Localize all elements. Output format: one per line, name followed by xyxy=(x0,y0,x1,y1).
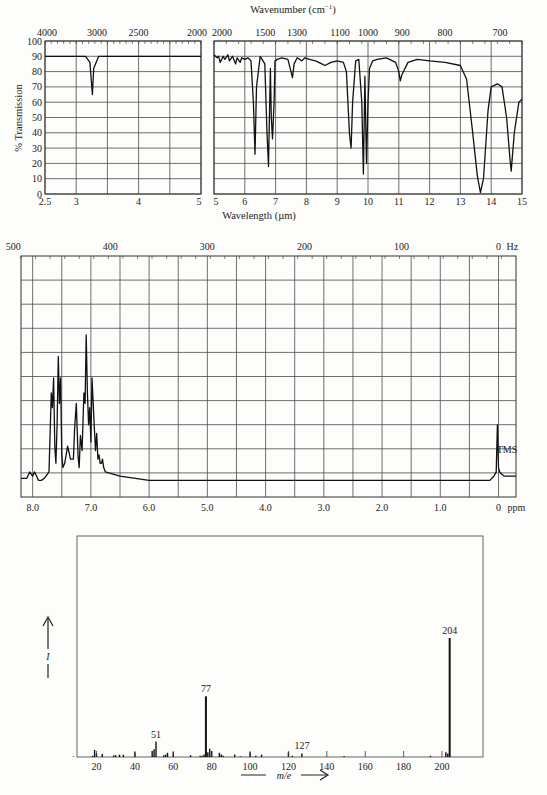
svg-text:77: 77 xyxy=(201,683,211,694)
ms-peaks xyxy=(73,638,449,757)
svg-text:2000: 2000 xyxy=(187,27,207,38)
svg-text:ppm: ppm xyxy=(508,502,526,513)
svg-text:12: 12 xyxy=(425,196,435,207)
svg-text:40: 40 xyxy=(32,127,42,138)
svg-text:20: 20 xyxy=(32,158,42,169)
ms-xlabel: m/e xyxy=(277,770,292,781)
svg-text:7.0: 7.0 xyxy=(85,502,98,513)
svg-text:6.0: 6.0 xyxy=(143,502,156,513)
svg-text:60: 60 xyxy=(32,97,42,108)
svg-text:1500: 1500 xyxy=(255,27,275,38)
svg-text:5.0: 5.0 xyxy=(201,502,214,513)
svg-text:15: 15 xyxy=(517,196,527,207)
svg-text:50: 50 xyxy=(32,112,42,123)
svg-text:9: 9 xyxy=(335,196,340,207)
svg-text:1000: 1000 xyxy=(358,27,378,38)
svg-text:204: 204 xyxy=(442,625,457,636)
svg-text:Hz: Hz xyxy=(507,241,519,252)
svg-text:10: 10 xyxy=(363,196,373,207)
svg-text:30: 30 xyxy=(32,143,42,154)
svg-text:2.0: 2.0 xyxy=(376,502,389,513)
svg-text:200: 200 xyxy=(435,761,450,772)
svg-text:13: 13 xyxy=(455,196,465,207)
ir-xlabel: Wavelength (µm) xyxy=(222,210,296,222)
svg-text:3000: 3000 xyxy=(87,27,107,38)
svg-text:800: 800 xyxy=(438,27,453,38)
svg-text:70: 70 xyxy=(32,81,42,92)
svg-text:90: 90 xyxy=(32,51,42,62)
svg-text:100: 100 xyxy=(27,36,42,47)
svg-text:8.0: 8.0 xyxy=(26,502,39,513)
ir-axis-labels: 2.53454000300025002000567891011121314152… xyxy=(27,27,527,207)
ir-ylabel: % Transmission xyxy=(13,84,24,152)
nmr-tms-label: TMS xyxy=(497,444,518,455)
svg-text:6: 6 xyxy=(242,196,247,207)
svg-text:0: 0 xyxy=(496,502,501,513)
svg-text:700: 700 xyxy=(493,27,508,38)
ir-wavenumber-title: Wavenumber (cm−1) xyxy=(250,3,336,16)
svg-text:180: 180 xyxy=(396,761,411,772)
ms-ylabel: I xyxy=(45,651,50,662)
svg-text:2000: 2000 xyxy=(212,27,232,38)
svg-text:100: 100 xyxy=(243,761,258,772)
svg-text:900: 900 xyxy=(395,27,410,38)
svg-text:500: 500 xyxy=(6,241,21,252)
svg-text:200: 200 xyxy=(297,241,312,252)
svg-text:0: 0 xyxy=(496,241,501,252)
svg-text:80: 80 xyxy=(32,66,42,77)
svg-text:40: 40 xyxy=(130,761,140,772)
svg-text:300: 300 xyxy=(200,241,215,252)
ms-axis-labels: 204060801001201401601802005177127204 xyxy=(92,625,458,772)
ir-spectrum: 2.53454000300025002000567891011121314152… xyxy=(13,3,527,222)
svg-text:2500: 2500 xyxy=(129,27,149,38)
svg-text:14: 14 xyxy=(486,196,496,207)
svg-text:7: 7 xyxy=(273,196,278,207)
svg-text:4: 4 xyxy=(136,196,141,207)
svg-text:5: 5 xyxy=(214,196,219,207)
svg-text:4.0: 4.0 xyxy=(259,502,272,513)
nmr-grid xyxy=(21,256,516,497)
ms-frame xyxy=(77,536,483,757)
svg-text:400: 400 xyxy=(103,241,118,252)
svg-text:10: 10 xyxy=(32,173,42,184)
svg-text:100: 100 xyxy=(394,241,409,252)
svg-text:3.0: 3.0 xyxy=(318,502,331,513)
svg-text:160: 160 xyxy=(358,761,373,772)
svg-text:5: 5 xyxy=(197,196,202,207)
ms-intensity-axis: I xyxy=(43,617,53,678)
svg-text:0: 0 xyxy=(37,189,42,200)
spectra-figure: 2.53454000300025002000567891011121314152… xyxy=(0,0,547,795)
svg-text:8: 8 xyxy=(304,196,309,207)
nmr-spectrum: 8.07.06.05.04.03.02.01.00ppm500400300200… xyxy=(6,241,526,513)
mass-spectrum: 204060801001201401601802005177127204 I m… xyxy=(43,536,483,781)
svg-text:1.0: 1.0 xyxy=(434,502,447,513)
nmr-signal-curve xyxy=(21,335,516,480)
svg-text:60: 60 xyxy=(168,761,178,772)
ir-transmission-curve xyxy=(45,55,522,193)
svg-text:127: 127 xyxy=(294,740,309,751)
svg-text:20: 20 xyxy=(92,761,102,772)
svg-text:1100: 1100 xyxy=(330,27,350,38)
svg-text:80: 80 xyxy=(207,761,217,772)
svg-text:1300: 1300 xyxy=(287,27,307,38)
svg-text:11: 11 xyxy=(394,196,404,207)
svg-text:51: 51 xyxy=(151,729,161,740)
svg-text:3: 3 xyxy=(74,196,79,207)
